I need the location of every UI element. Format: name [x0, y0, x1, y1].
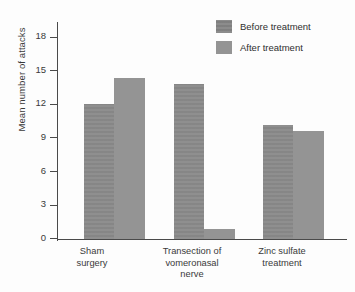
category-line: treatment [239, 258, 325, 270]
y-tick-label-9: 9 [41, 131, 46, 142]
category-label-transection-vomeronasal-nerve: Transection of vomeronasal nerve [146, 246, 238, 281]
category-line: Zinc sulfate [239, 246, 325, 258]
y-tick-label-15: 15 [35, 64, 46, 75]
y-tick-label-6: 6 [41, 165, 46, 176]
category-line: surgery [55, 258, 129, 270]
legend-label-after: After treatment [240, 42, 303, 53]
y-tick-label-12: 12 [35, 97, 46, 108]
legend-label-before: Before treatment [240, 21, 311, 32]
bar-after-group-1 [114, 78, 145, 239]
y-tick-15: 15 [50, 70, 57, 71]
bar-chart-figure: Mean number of attacks 0 3 6 9 12 15 18 [0, 0, 355, 292]
y-axis-label: Mean number of attacks [16, 5, 27, 155]
x-axis-line [57, 239, 347, 240]
bar-before-group-3 [263, 125, 293, 239]
legend-swatch-before-icon [216, 20, 232, 33]
category-line: nerve [146, 269, 238, 281]
bar-before-group-1 [84, 104, 114, 239]
y-tick-12: 12 [50, 104, 57, 105]
legend-item-before-treatment: Before treatment [216, 20, 311, 33]
legend-item-after-treatment: After treatment [216, 41, 311, 54]
y-tick-18: 18 [50, 37, 57, 38]
category-label-sham-surgery: Sham surgery [55, 246, 129, 269]
category-line: Sham [55, 246, 129, 258]
chart-legend: Before treatment After treatment [216, 20, 311, 62]
category-line: Transection of [146, 246, 238, 258]
y-tick-label-3: 3 [41, 198, 46, 209]
y-tick-label-18: 18 [35, 30, 46, 41]
y-axis-line [57, 22, 58, 241]
bar-before-group-2 [174, 84, 204, 239]
category-line: vomeronasal [146, 258, 238, 270]
legend-swatch-after-icon [216, 41, 232, 54]
y-tick-label-0: 0 [41, 232, 46, 243]
bar-after-group-2 [204, 229, 235, 239]
y-tick-6: 6 [50, 171, 57, 172]
y-tick-9: 9 [50, 137, 57, 138]
bar-after-group-3 [293, 131, 324, 239]
y-tick-0: 0 [50, 238, 57, 239]
y-tick-3: 3 [50, 205, 57, 206]
category-label-zinc-sulfate-treatment: Zinc sulfate treatment [239, 246, 325, 269]
